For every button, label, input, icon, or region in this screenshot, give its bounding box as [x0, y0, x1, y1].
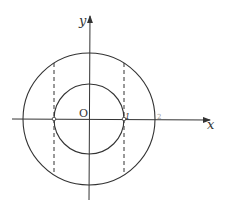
- y-axis: [89, 16, 90, 200]
- x-axis-label: x: [207, 117, 215, 132]
- outer-radius-label: 2: [157, 113, 161, 121]
- y-axis-label: y: [78, 13, 87, 28]
- x-axis: [12, 119, 210, 120]
- origin-label: O: [79, 107, 88, 120]
- inner-radius-label: 1: [125, 112, 130, 121]
- point-left: [52, 117, 56, 121]
- diagram-canvas: y x O 1 2: [0, 0, 226, 207]
